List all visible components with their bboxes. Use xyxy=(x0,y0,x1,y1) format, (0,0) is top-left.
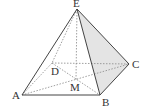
shaded-face-ebc xyxy=(77,9,129,95)
label-m: M xyxy=(70,81,80,93)
label-e: E xyxy=(73,0,80,9)
pyramid-diagram: E A B C D M xyxy=(0,0,147,108)
edge-em xyxy=(76,9,77,80)
label-d: D xyxy=(51,65,59,77)
edge-ea xyxy=(22,9,77,95)
label-b: B xyxy=(102,96,109,108)
label-a: A xyxy=(12,89,20,101)
edge-ad xyxy=(22,63,52,95)
edge-ed xyxy=(52,9,77,63)
label-c: C xyxy=(132,58,139,70)
